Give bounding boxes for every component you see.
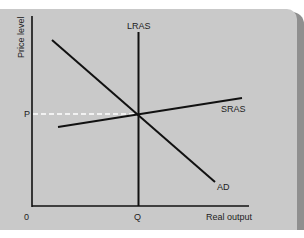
y-axis-label: Price level <box>16 16 26 58</box>
p-tick-label: P <box>24 109 30 119</box>
q-tick-label: Q <box>134 212 141 222</box>
origin-label: 0 <box>24 212 29 222</box>
ad-curve <box>52 40 215 182</box>
ad-label: AD <box>217 182 230 192</box>
as-ad-chart: Price level P 0 Q Real output LRAS SRAS … <box>0 0 304 238</box>
sras-curve <box>58 98 242 127</box>
sras-label: SRAS <box>221 104 246 114</box>
x-axis-label: Real output <box>206 212 253 222</box>
lras-label: LRAS <box>127 21 151 31</box>
